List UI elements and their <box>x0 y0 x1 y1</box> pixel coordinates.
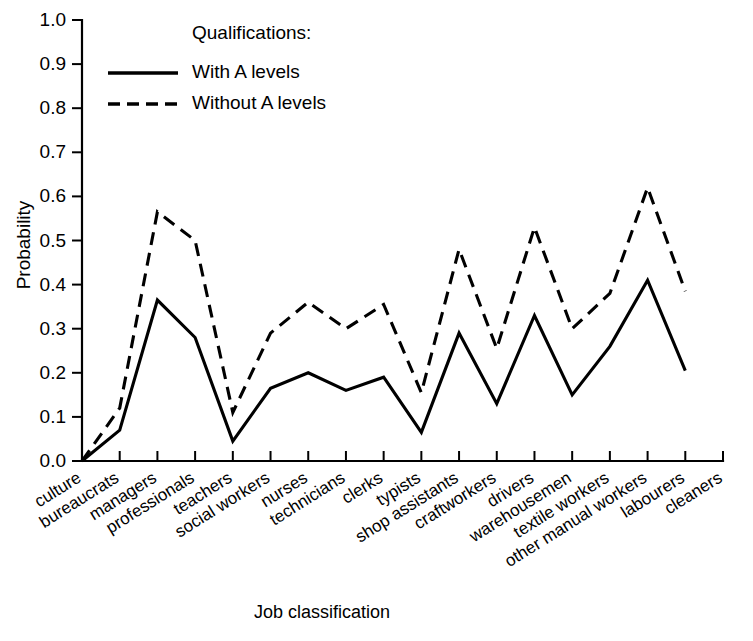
y-axis-tick-label: 0.2 <box>40 362 66 383</box>
y-axis-ticks <box>72 20 82 461</box>
probability-by-job-classification-line-chart: 0.00.10.20.30.40.50.60.70.80.91.0 cultur… <box>0 0 753 641</box>
y-axis-tick-label: 0.7 <box>40 141 66 162</box>
axes-group <box>82 20 723 461</box>
y-axis-tick-label: 0.5 <box>40 230 66 251</box>
y-axis-tick-label: 0.9 <box>40 53 66 74</box>
legend-label-without-a-levels: Without A levels <box>192 92 326 113</box>
legend: Qualifications: With A levels Without A … <box>108 22 326 113</box>
legend-title: Qualifications: <box>192 22 311 43</box>
y-axis-tick-label: 0.8 <box>40 97 66 118</box>
y-axis-tick-label: 0.4 <box>40 274 67 295</box>
series-group <box>82 188 685 461</box>
y-axis-title: Probability <box>13 200 34 289</box>
x-axis-category-labels: culturebureaucratsmanagersprofessionalst… <box>31 468 725 571</box>
y-axis-tick-labels: 0.00.10.20.30.40.50.60.70.80.91.0 <box>40 9 67 471</box>
y-axis-tick-label: 0.3 <box>40 318 66 339</box>
y-axis-tick-label: 1.0 <box>40 9 66 30</box>
x-axis-title: Job classification <box>254 602 390 622</box>
chart-figure: 0.00.10.20.30.40.50.60.70.80.91.0 cultur… <box>0 0 753 641</box>
y-axis-tick-label: 0.0 <box>40 450 66 471</box>
legend-label-with-a-levels: With A levels <box>192 61 300 82</box>
x-axis-ticks <box>82 451 723 461</box>
y-axis-tick-label: 0.6 <box>40 185 66 206</box>
series-line-without-a-levels <box>82 188 685 461</box>
y-axis-tick-label: 0.1 <box>40 406 66 427</box>
